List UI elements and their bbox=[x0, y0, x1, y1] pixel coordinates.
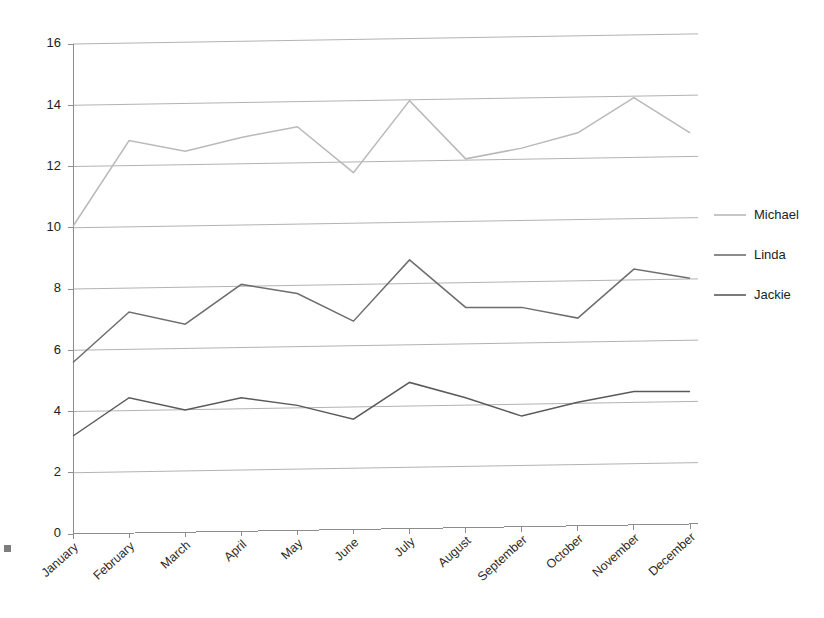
y-tick-label-12: 12 bbox=[47, 158, 61, 173]
y-axis-ticks bbox=[68, 44, 73, 534]
gridlines-group bbox=[73, 34, 698, 473]
y-tick-label-16: 16 bbox=[47, 35, 61, 50]
x-tick-label-march: March bbox=[158, 538, 193, 572]
x-tick-label-january: January bbox=[39, 539, 82, 580]
gridline-y-6 bbox=[73, 340, 698, 350]
gridline-y-12 bbox=[73, 156, 698, 166]
x-tick-label-february: February bbox=[91, 538, 138, 582]
x-axis-tick-labels: JanuaryFebruaryMarchAprilMayJuneJulyAugu… bbox=[39, 530, 698, 584]
gridline-y-14 bbox=[73, 95, 698, 105]
series-line-linda bbox=[73, 260, 690, 363]
y-tick-label-4: 4 bbox=[54, 403, 61, 418]
axes-group bbox=[73, 44, 698, 534]
x-axis-ticks bbox=[73, 524, 690, 539]
gridline-y-2 bbox=[73, 463, 698, 473]
chart-legend: MichaelLindaJackie bbox=[714, 207, 799, 302]
chart-canvas: 0246810121416 JanuaryFebruaryMarchAprilM… bbox=[0, 0, 824, 618]
gridline-y-10 bbox=[73, 218, 698, 228]
scan-artifact-mark bbox=[4, 545, 11, 552]
x-tick-label-december: December bbox=[646, 530, 698, 579]
y-tick-label-8: 8 bbox=[54, 280, 61, 295]
x-tick-label-august: August bbox=[435, 533, 474, 570]
x-tick-label-april: April bbox=[221, 537, 249, 564]
x-axis-line bbox=[73, 524, 698, 534]
x-tick-label-june: June bbox=[332, 535, 362, 564]
x-tick-label-july: July bbox=[392, 534, 418, 560]
y-tick-label-0: 0 bbox=[54, 525, 61, 540]
line-chart: 0246810121416 JanuaryFebruaryMarchAprilM… bbox=[0, 0, 824, 618]
x-tick-label-october: October bbox=[543, 532, 585, 572]
y-tick-label-6: 6 bbox=[54, 342, 61, 357]
legend-label-linda[interactable]: Linda bbox=[754, 247, 787, 262]
gridline-y-8 bbox=[73, 279, 698, 289]
data-series-group bbox=[73, 98, 690, 436]
x-tick-label-may: May bbox=[278, 536, 305, 563]
legend-label-michael[interactable]: Michael bbox=[754, 207, 799, 222]
legend-label-jackie[interactable]: Jackie bbox=[754, 287, 791, 302]
x-tick-label-september: September bbox=[475, 533, 530, 584]
series-line-jackie bbox=[73, 382, 690, 436]
x-tick-label-november: November bbox=[590, 531, 642, 580]
y-tick-label-10: 10 bbox=[47, 219, 61, 234]
y-axis-tick-labels: 0246810121416 bbox=[47, 35, 61, 540]
y-tick-label-14: 14 bbox=[47, 97, 61, 112]
y-tick-label-2: 2 bbox=[54, 464, 61, 479]
gridline-y-16 bbox=[73, 34, 698, 44]
